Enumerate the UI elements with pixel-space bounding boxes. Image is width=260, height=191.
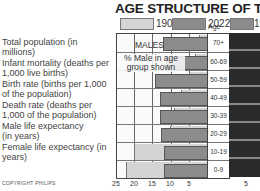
x-tick-right: 5 [244, 180, 248, 187]
age-label: 40-49 [208, 88, 229, 107]
bar-row [229, 121, 260, 141]
stat-male-life-expectancy: Male life expectancy (in years) [2, 121, 92, 141]
legend-swatch-1901 [120, 18, 154, 30]
bar-2022 [160, 110, 208, 124]
chart-title: AGE STRUCTURE OF THE UK [115, 1, 260, 16]
bar-row-40-49 [117, 88, 208, 107]
age-label: 10-19 [208, 142, 229, 161]
age-label: 50-59 [208, 70, 229, 89]
bar-row [229, 49, 260, 69]
bar-row-50-59 [117, 70, 208, 89]
bar-row [229, 157, 260, 177]
x-tick: 25 [112, 180, 120, 187]
bar-2022 [164, 146, 208, 160]
bar-2022 [155, 74, 208, 88]
x-tick: 20 [130, 180, 138, 187]
bar-2022 [163, 37, 208, 51]
bar-row-30-39 [117, 106, 208, 125]
x-tick: 10 [166, 180, 174, 187]
stat-death-rate: Death rate (deaths per 1,000 of the popu… [2, 100, 114, 120]
bar-row-20-29 [117, 124, 208, 143]
bar-row-10-19 [117, 142, 208, 161]
x-tick: 15 [148, 180, 156, 187]
age-label: 70+ [208, 34, 229, 52]
stat-birth-rate: Birth rate (births per 1,000 of the popu… [2, 79, 114, 99]
bar-2022 [161, 128, 208, 142]
age-label: 0-9 [208, 160, 229, 179]
bar-row [229, 139, 260, 159]
males-label: MALES [135, 40, 164, 50]
bar-row [229, 85, 260, 105]
stat-total-population: Total population (in millions) [2, 37, 98, 57]
legend-swatch-2022 [172, 18, 206, 30]
bar-row [229, 67, 260, 87]
bar-row-0-9 [117, 160, 208, 179]
age-header: Age [208, 23, 220, 30]
legend-swatch-third [230, 18, 254, 30]
age-label: 20-29 [208, 124, 229, 143]
bar-2022 [164, 164, 208, 178]
age-label: 60-69 [208, 52, 229, 71]
legend-label-third: 19 [254, 18, 260, 29]
copyright-notice: COPYRIGHT PHILIPS [2, 180, 56, 186]
age-label: 30-39 [208, 106, 229, 125]
stat-female-life-expectancy: Female life expectancy (in years) [2, 142, 114, 162]
stat-infant-mortality: Infant mortality (deaths per 1,000 live … [2, 58, 114, 78]
females-plot-area [229, 33, 260, 177]
bar-row [229, 103, 260, 123]
age-column: 70+ 60-69 50-59 40-49 30-39 20-29 10-19 … [207, 33, 230, 179]
x-tick: 5 [187, 180, 191, 187]
bar-2022 [160, 92, 208, 106]
percent-male-label: % Male in age group shown [117, 54, 185, 72]
